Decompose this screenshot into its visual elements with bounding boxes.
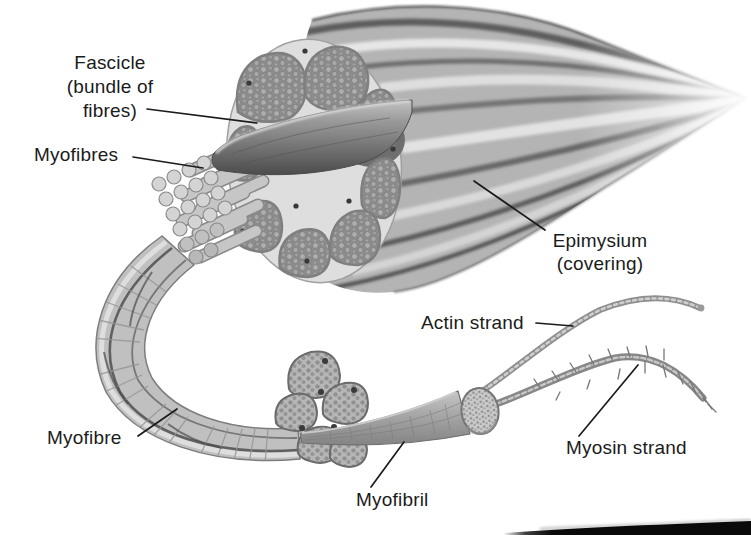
label-myofibril: Myofibril xyxy=(356,488,429,512)
myofibre-band xyxy=(92,236,300,475)
label-myofibre: Myofibre xyxy=(47,426,121,450)
label-fascicle-line3: fibres) xyxy=(34,99,186,123)
label-epimysium: Epimysium (covering) xyxy=(538,229,662,275)
myofibril-leader-line xyxy=(371,442,404,487)
label-fascicle-line1: Fascicle xyxy=(34,51,186,75)
label-myofibres: Myofibres xyxy=(34,143,118,167)
label-epimysium-line2: (covering) xyxy=(538,252,662,275)
bottom-edge-strip xyxy=(503,520,751,535)
myofibres-leader-line xyxy=(133,157,203,168)
myosin-leader-line xyxy=(579,365,638,436)
actin-leader-line xyxy=(536,323,573,326)
label-fascicle-line2: (bundle of xyxy=(34,75,186,99)
label-fascicle: Fascicle (bundle of fibres) xyxy=(34,51,186,123)
label-epimysium-line1: Epimysium xyxy=(538,229,662,252)
label-actin-strand: Actin strand xyxy=(421,311,524,335)
diagram-canvas: Fascicle (bundle of fibres) Myofibres Ep… xyxy=(0,0,751,535)
label-myosin-strand: Myosin strand xyxy=(566,436,687,460)
